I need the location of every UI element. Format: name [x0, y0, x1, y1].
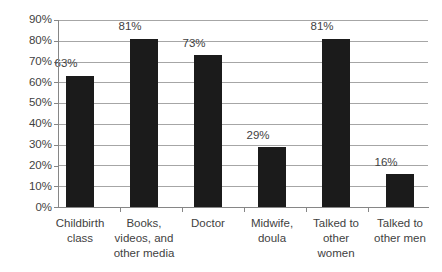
bar [322, 39, 350, 207]
y-axis-tick-label: 80% [4, 35, 52, 47]
bar-value-label: 63% [36, 58, 96, 70]
y-axis-tick-label: 60% [4, 77, 52, 89]
gridline [58, 82, 428, 83]
x-axis-category-line: women [298, 246, 374, 261]
gridline [58, 41, 428, 42]
y-axis-tick-label: 20% [4, 160, 52, 172]
bar-value-label: 16% [356, 157, 416, 169]
gridline [58, 124, 428, 125]
y-axis-tick-label: 10% [4, 181, 52, 193]
x-axis-tick [120, 207, 121, 212]
gridline [58, 103, 428, 104]
gridline [58, 186, 428, 187]
x-axis-tick [244, 207, 245, 212]
plot-area [58, 20, 428, 207]
y-axis-tick-label: 50% [4, 97, 52, 109]
bar [130, 39, 158, 207]
bar [66, 76, 94, 207]
bar-value-label: 73% [164, 38, 224, 50]
gridline [58, 62, 428, 63]
x-axis-tick [368, 207, 369, 212]
y-axis-tick-label: 30% [4, 139, 52, 151]
x-axis-category-line: other men [362, 231, 438, 246]
bar [258, 147, 286, 207]
x-axis-category-line: other media [106, 246, 182, 261]
y-axis-line [58, 20, 59, 208]
x-axis-category-line: Talked to [362, 216, 438, 231]
bar-value-label: 81% [292, 21, 352, 33]
bar-value-label: 81% [100, 21, 160, 33]
x-axis-tick [306, 207, 307, 212]
x-axis-category-label: Talked to other men [362, 216, 438, 246]
x-axis-tick [182, 207, 183, 212]
y-axis-tick-label: 90% [4, 14, 52, 26]
bar-chart: 90% 80% 70% 60% 50% 40% 30% 20% 10% 0% [0, 0, 442, 272]
x-axis-category-line: videos, and [106, 231, 182, 246]
gridline [58, 145, 428, 146]
y-axis-tick-label: 0% [4, 202, 52, 214]
y-axis-tick-label: 40% [4, 118, 52, 130]
bar [386, 174, 414, 207]
bar-value-label: 29% [228, 130, 288, 142]
bar [194, 55, 222, 207]
